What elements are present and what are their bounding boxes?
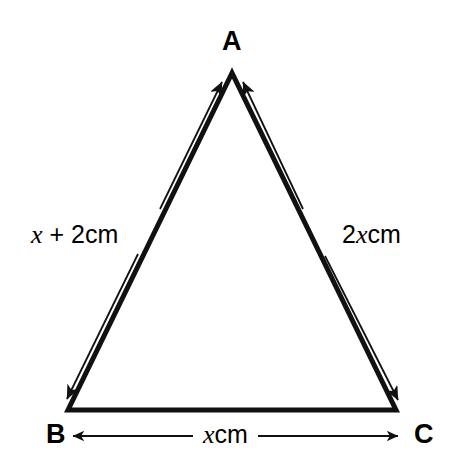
vertex-label-b: B: [46, 421, 65, 448]
triangle-diagram: A B C x + 2cm 2xcm xcm: [0, 0, 450, 470]
side-label-bc: xcm: [197, 422, 254, 448]
side-label-ac: 2xcm: [340, 222, 403, 248]
vertex-label-a: A: [222, 28, 241, 55]
side-label-ab: x + 2cm: [29, 222, 120, 248]
vertex-label-c: C: [414, 421, 433, 448]
